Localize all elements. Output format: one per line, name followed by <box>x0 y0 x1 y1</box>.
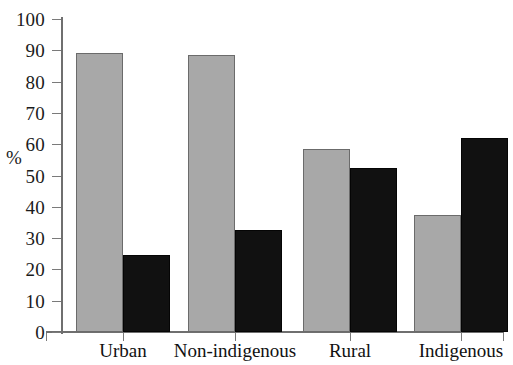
x-axis-category-label: Urban <box>99 341 146 361</box>
x-axis-category-label: Indigenous <box>419 341 503 361</box>
y-axis-tick <box>52 19 61 20</box>
x-axis-category-label: Non-indigenous <box>174 341 296 361</box>
y-axis-tick-label: 100 <box>0 10 45 29</box>
bar <box>235 230 282 332</box>
bar <box>76 53 123 332</box>
y-axis-tick-label: 60 <box>0 135 45 154</box>
bar <box>414 215 461 332</box>
x-axis-category-label: Rural <box>329 341 371 361</box>
y-axis-tick-label: 10 <box>0 292 45 311</box>
y-axis-tick <box>52 82 61 83</box>
bar <box>303 149 350 332</box>
bar-chart: % 1009080706050403020100 UrbanNon-indige… <box>0 0 513 365</box>
y-axis-tick-label: 80 <box>0 73 45 92</box>
y-axis-tick <box>52 113 61 114</box>
bar <box>350 168 397 332</box>
bar <box>123 255 170 332</box>
y-axis-tick-label: 20 <box>0 260 45 279</box>
bar <box>461 138 508 332</box>
y-axis-tick <box>52 269 61 270</box>
x-axis-end-tick <box>503 333 504 341</box>
y-axis-tick <box>52 207 61 208</box>
y-axis-tick <box>52 50 61 51</box>
x-axis-end-tick <box>46 333 47 341</box>
y-axis-tick <box>52 332 61 333</box>
y-axis-line <box>61 17 63 334</box>
y-axis-tick-label: 50 <box>0 167 45 186</box>
y-axis-tick <box>52 238 61 239</box>
y-axis-tick-label: 90 <box>0 41 45 60</box>
y-axis-tick-label: 0 <box>0 323 45 342</box>
y-axis-tick-label: 70 <box>0 104 45 123</box>
bar <box>188 55 235 332</box>
y-axis-tick-label: 40 <box>0 198 45 217</box>
y-axis-tick <box>52 301 61 302</box>
y-axis-tick <box>52 144 61 145</box>
y-axis-tick <box>52 176 61 177</box>
y-axis-tick-label: 30 <box>0 229 45 248</box>
